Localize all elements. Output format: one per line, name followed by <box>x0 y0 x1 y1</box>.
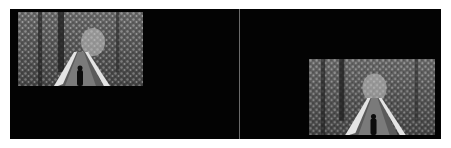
left-panel <box>10 9 239 139</box>
comparison-canvas <box>10 9 441 139</box>
forest-bridge-photo-left[interactable] <box>18 12 143 86</box>
forest-bridge-photo-right[interactable] <box>309 59 435 135</box>
photo-graphic <box>18 12 143 86</box>
photo-graphic <box>309 59 435 135</box>
right-panel <box>240 9 441 139</box>
